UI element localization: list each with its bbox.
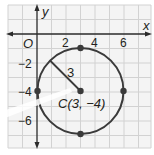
point-bottom	[77, 131, 83, 137]
x-tick-2: 2	[62, 36, 69, 50]
y-tick-neg6: −6	[18, 114, 32, 128]
point-left	[34, 88, 40, 94]
x-tick-6: 6	[120, 36, 127, 50]
origin-label: O	[23, 36, 33, 51]
radius-label: 3	[67, 65, 74, 80]
y-tick-neg4: −4	[18, 85, 32, 99]
coordinate-plane-figure: y x O 2 4 6 −2 −4 −6 3 C(3, −4)	[0, 0, 154, 155]
center-point	[77, 88, 83, 94]
x-axis-label: x	[142, 18, 150, 33]
y-tick-neg2: −2	[18, 57, 32, 71]
point-top	[77, 45, 83, 51]
center-label: C(3, −4)	[58, 96, 105, 111]
x-tick-4: 4	[91, 36, 98, 50]
point-right	[120, 88, 126, 94]
